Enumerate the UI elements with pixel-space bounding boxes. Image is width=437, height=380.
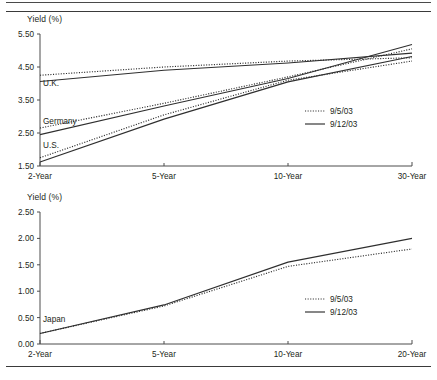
- y-axis-title-bottom: Yield (%): [27, 192, 62, 202]
- y-tick-label: 2.50: [18, 129, 34, 138]
- y-tick-label: 4.50: [18, 63, 34, 72]
- x-tick-label: 5-Year: [152, 172, 176, 181]
- y-tick-label: 2.50: [18, 208, 34, 217]
- x-tick-label: 20-Year: [398, 350, 427, 359]
- series-line-germany-9-5-03: [40, 49, 412, 128]
- legend-label-dotted: 9/5/03: [330, 295, 353, 304]
- legend-label-dotted: 9/5/03: [330, 107, 353, 116]
- legend-label-solid: 9/12/03: [330, 308, 358, 317]
- y-tick-label: 1.00: [18, 287, 34, 296]
- x-tick-label: 30-Year: [398, 172, 427, 181]
- chart-panel-bottom: Yield (%) 0.000.501.001.502.002.502-Year…: [0, 192, 437, 364]
- y-tick-label: 2.00: [18, 234, 34, 243]
- annotation-u-k: U.K.: [43, 79, 59, 88]
- annotation-germany: Germany: [43, 117, 78, 126]
- x-tick-label: 2-Year: [28, 350, 52, 359]
- y-tick-label: 0.50: [18, 314, 34, 323]
- plot-area-bottom: 0.000.501.001.502.002.502-Year5-Year10-Y…: [0, 206, 437, 364]
- annotation-japan: Japan: [43, 315, 66, 324]
- y-axis-title-top: Yield (%): [27, 14, 62, 24]
- y-tick-label: 5.50: [18, 30, 34, 39]
- header-divider-rule: [6, 11, 431, 12]
- annotation-u-s: U.S.: [43, 141, 59, 150]
- plot-area-top: 1.502.503.504.505.502-Year5-Year10-Year3…: [0, 28, 437, 188]
- series-line-japan-9-12-03: [40, 238, 412, 333]
- legend-label-solid: 9/12/03: [330, 120, 358, 129]
- chart-panel-top: Yield (%) 1.502.503.504.505.502-Year5-Ye…: [0, 14, 437, 190]
- x-tick-label: 5-Year: [152, 350, 176, 359]
- footer-divider-rule: [6, 366, 431, 367]
- y-tick-label: 0.00: [18, 340, 34, 349]
- x-tick-label: 10-Year: [274, 172, 303, 181]
- x-tick-label: 2-Year: [28, 172, 52, 181]
- y-tick-label: 1.50: [18, 162, 34, 171]
- series-line-u-s-9-12-03: [40, 56, 412, 162]
- top-partial-rule: [6, 1, 431, 4]
- y-tick-label: 3.50: [18, 96, 34, 105]
- x-tick-label: 10-Year: [274, 350, 303, 359]
- y-tick-label: 1.50: [18, 261, 34, 270]
